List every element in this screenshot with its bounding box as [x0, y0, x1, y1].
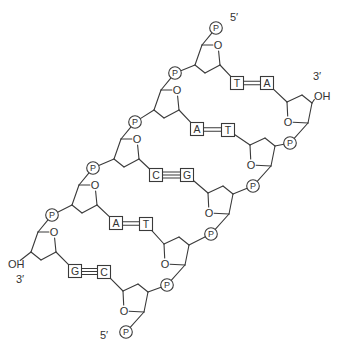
c3-to-c4-bond: [185, 245, 189, 265]
c3-to-c4-bond: [72, 185, 79, 205]
right-phosphate-2: P: [247, 180, 260, 193]
c2-to-c3-bond: [223, 186, 233, 194]
ring-oxygen-label: O: [214, 39, 223, 51]
base-T-right-4: T: [140, 218, 153, 231]
left-phosphate-2: P: [169, 67, 182, 80]
phosphate-label: P: [172, 68, 178, 78]
base-pairs: TAATCGATGC: [69, 77, 274, 279]
ring-oxygen-label: O: [161, 258, 170, 270]
left-sugar-oxygen-1: O: [214, 39, 223, 51]
c2-to-c3-bond: [154, 110, 164, 118]
o-to-c1-bond: [250, 145, 251, 159]
right-strand-5prime-label: 5′: [100, 329, 108, 341]
glycosidic-bond: [235, 135, 250, 145]
right-phosphate-1: P: [284, 137, 297, 150]
base-letter: A: [193, 123, 200, 135]
base-letter: C: [152, 169, 160, 181]
c1-to-c2-bond: [82, 205, 97, 213]
dna-diagram: TAATCGATGC OPOPOPOPOPOHOPOHOPOPOPOP 5′ 3…: [0, 0, 349, 348]
base-T-right-2: T: [222, 124, 235, 137]
phosphate-label: P: [213, 23, 219, 33]
ring-oxygen-label: O: [173, 84, 182, 96]
c2-to-c3-bond: [195, 65, 205, 73]
glycosidic-bond: [110, 278, 123, 291]
right-phosphate-3: P: [205, 228, 218, 241]
c3-to-c4-bond: [308, 103, 312, 123]
p-to-c4-bond: [257, 166, 271, 181]
base-A-left-2: A: [191, 123, 204, 136]
phosphate-label: P: [49, 210, 55, 220]
p-to-c4-bond: [79, 173, 89, 185]
c3-to-next-p-bond: [58, 205, 72, 212]
glycosidic-bond: [273, 89, 287, 102]
c2-to-c3-bond: [265, 138, 275, 146]
left-strand-5prime-label: 5′: [230, 11, 238, 23]
c4-to-o-bond: [293, 122, 308, 123]
o-to-c1-bond: [123, 291, 124, 305]
glycosidic-bond: [97, 205, 110, 217]
right-hydroxyl-label: OH: [314, 90, 331, 102]
base-A-left-4: A: [110, 217, 123, 230]
base-letter: T: [225, 124, 232, 136]
c3-to-prev-p-bond: [148, 287, 161, 292]
c3-to-prev-p-bond: [233, 188, 247, 194]
phosphate-label: P: [123, 327, 129, 337]
c3-to-next-p-bond: [140, 110, 154, 119]
ring-oxygen-label: O: [247, 159, 256, 171]
c1-to-c2-bond: [208, 186, 223, 193]
phosphate-label: P: [287, 138, 293, 148]
base-letter: A: [263, 77, 270, 89]
phosphate-label: P: [250, 181, 256, 191]
glycosidic-bond: [194, 181, 208, 193]
c2-to-c3-bond: [138, 284, 148, 292]
right-sugar-oxygen-5: O: [120, 305, 129, 317]
glycosidic-bond: [139, 159, 150, 169]
c3-to-c4-bond: [271, 146, 275, 166]
glycosidic-bond: [179, 110, 191, 123]
base-letter: C: [100, 266, 108, 278]
c3-to-c4-bond: [114, 139, 121, 159]
c1-to-c2-bond: [250, 138, 265, 145]
right-strand-3prime-label: 3′: [313, 70, 321, 82]
o-to-c1-bond: [96, 191, 97, 205]
right-sugar-oxygen-1: O: [284, 116, 293, 128]
right-phosphate-4: P: [161, 279, 174, 292]
c3-to-prev-p-bond: [189, 237, 205, 245]
left-phosphate-3: P: [129, 116, 142, 129]
base-T-left-1: T: [231, 77, 244, 90]
p-to-c4-bond: [171, 265, 185, 280]
right-phosphate-5: P: [120, 326, 133, 339]
right-sugar-oxygen-2: O: [247, 159, 256, 171]
dna-structure-svg: TAATCGATGC OPOPOPOPOPOHOPOHOPOPOPOP 5′ 3…: [0, 0, 349, 348]
o-to-c1-bond: [287, 102, 288, 116]
right-sugar-oxygen-3: O: [205, 207, 214, 219]
base-letter: A: [112, 217, 119, 229]
c1-to-c2-bond: [123, 284, 138, 291]
p-to-c4-bond: [161, 78, 171, 90]
base-letter: T: [234, 77, 241, 89]
left-phosphate-4: P: [87, 162, 100, 175]
c2-to-c3-bond: [31, 252, 41, 260]
p-to-c4-bond: [38, 220, 48, 232]
p-to-c4-bond: [202, 33, 212, 45]
phosphate-label: P: [132, 117, 138, 127]
base-letter: T: [143, 218, 150, 230]
c3-to-c4-bond: [229, 194, 233, 214]
phosphate-label: P: [90, 163, 96, 173]
phosphate-label: P: [164, 280, 170, 290]
base-A-right-1: A: [261, 77, 274, 90]
c3-to-next-p-bond: [181, 65, 195, 71]
ring-oxygen-label: O: [284, 116, 293, 128]
o-to-c1-bond: [208, 193, 209, 207]
left-sugar-oxygen-4: O: [91, 179, 100, 191]
p-to-c4-bond: [294, 123, 308, 138]
c2-to-c3-bond: [72, 205, 82, 213]
c2-to-c3-bond: [179, 237, 189, 245]
p-to-c4-bond: [121, 127, 131, 139]
o-to-c1-bond: [55, 238, 56, 252]
right-sugar-oxygen-4: O: [161, 258, 170, 270]
o-to-c1-bond: [164, 244, 165, 258]
c2-to-c3-bond: [302, 95, 312, 103]
c3-to-next-p-bond: [99, 159, 114, 166]
ring-oxygen-label: O: [91, 179, 100, 191]
